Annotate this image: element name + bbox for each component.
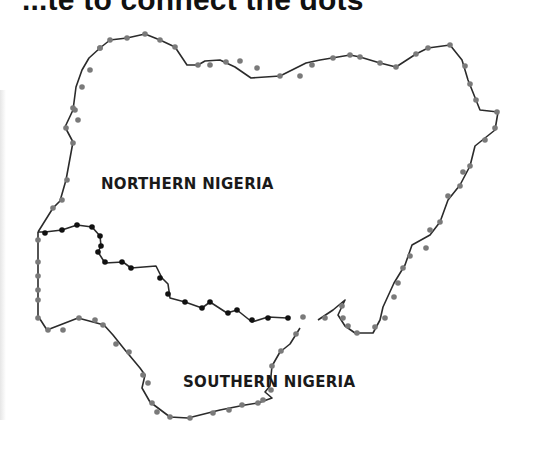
border-dot[interactable] [425,45,431,51]
border-dot[interactable] [255,400,261,406]
border-dot[interactable] [145,380,151,386]
boundary-dot[interactable] [42,230,48,236]
border-dot[interactable] [400,265,406,271]
border-dot[interactable] [357,54,363,60]
border-dot[interactable] [391,294,397,300]
border-dot[interactable] [50,205,56,211]
border-dot[interactable] [35,297,41,303]
border-dot[interactable] [447,42,453,48]
border-dot[interactable] [207,62,213,68]
border-dot[interactable] [92,317,98,323]
boundary-dots[interactable] [42,222,291,323]
boundary-dot[interactable] [265,315,271,321]
border-dot[interactable] [167,414,173,420]
border-dot[interactable] [300,314,306,320]
boundary-dot[interactable] [98,243,104,249]
boundary-dot[interactable] [207,299,213,305]
border-dot[interactable] [70,105,76,111]
border-dot[interactable] [347,52,353,58]
boundary-dot[interactable] [182,299,188,305]
border-dot[interactable] [237,58,243,64]
border-dot[interactable] [297,73,303,79]
border-dot[interactable] [372,324,378,330]
border-dot[interactable] [149,400,155,406]
border-dot[interactable] [340,315,346,321]
border-dot[interactable] [462,63,468,69]
border-dot[interactable] [64,177,70,183]
border-dot[interactable] [195,62,201,68]
border-dot[interactable] [377,60,383,66]
boundary-dot[interactable] [74,222,80,228]
border-dot[interactable] [269,363,275,369]
border-dot[interactable] [35,315,41,321]
border-dot[interactable] [172,44,178,50]
boundary-dot[interactable] [225,310,231,316]
border-dot[interactable] [395,280,401,286]
border-dot[interactable] [339,303,345,309]
border-dot[interactable] [226,407,232,413]
boundary-dot[interactable] [165,291,171,297]
border-dot[interactable] [322,315,328,321]
border-dot[interactable] [467,163,473,169]
border-dot[interactable] [107,37,113,43]
border-dot[interactable] [407,253,413,259]
border-dot[interactable] [437,219,443,225]
border-dot[interactable] [393,64,399,70]
boundary-dot[interactable] [97,233,103,239]
border-dot[interactable] [60,327,66,333]
border-dot[interactable] [382,315,388,321]
boundary-dot[interactable] [95,249,101,255]
border-dot[interactable] [126,349,132,355]
border-dot[interactable] [35,287,41,293]
boundary-dot[interactable] [157,275,163,281]
border-dot[interactable] [35,237,41,243]
border-dot[interactable] [413,51,419,57]
border-dot[interactable] [35,273,41,279]
boundary-dot[interactable] [249,317,255,323]
border-dot[interactable] [473,97,479,103]
boundary-dot[interactable] [128,265,134,271]
border-dot[interactable] [87,67,93,73]
border-dot[interactable] [187,415,193,421]
boundary-dot[interactable] [89,224,95,230]
border-dot[interactable] [154,409,160,415]
border-dot[interactable] [423,245,429,251]
boundary-dot[interactable] [199,305,205,311]
border-dot[interactable] [278,348,284,354]
boundary-dot[interactable] [234,307,240,313]
border-dot[interactable] [482,137,488,143]
border-dot[interactable] [140,372,146,378]
border-dot[interactable] [277,73,283,79]
border-dot[interactable] [354,330,360,336]
boundary-dot[interactable] [119,259,125,265]
border-dot[interactable] [330,55,336,61]
border-dot[interactable] [494,109,500,115]
border-dot[interactable] [467,81,473,87]
border-dot[interactable] [427,227,433,233]
boundary-dot[interactable] [285,315,291,321]
border-dot[interactable] [35,259,41,265]
border-dot[interactable] [457,183,463,189]
border-dot[interactable] [254,65,260,71]
border-dot[interactable] [70,140,76,146]
border-dot[interactable] [260,397,266,403]
border-dot[interactable] [76,315,82,321]
border-dot[interactable] [113,341,119,347]
border-dot[interactable] [157,37,163,43]
border-dots[interactable] [35,31,500,421]
border-dot[interactable] [239,402,245,408]
border-dot[interactable] [142,31,148,37]
border-dot[interactable] [345,323,351,329]
border-dot[interactable] [63,125,69,131]
border-dot[interactable] [293,331,299,337]
border-dot[interactable] [97,45,103,51]
border-dot[interactable] [223,59,229,65]
boundary-dot[interactable] [59,227,65,233]
border-dot[interactable] [492,125,498,131]
border-dot[interactable] [59,197,65,203]
border-dot[interactable] [210,410,216,416]
border-dot[interactable] [45,327,51,333]
border-dot[interactable] [445,193,451,199]
border-dot[interactable] [79,84,85,90]
border-dot[interactable] [460,169,466,175]
